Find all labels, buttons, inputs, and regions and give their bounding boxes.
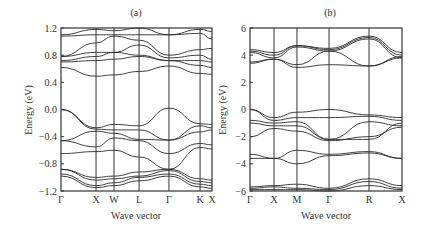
kpoint-label: Γ (58, 194, 64, 205)
ytick-label: −0.8 (39, 158, 57, 169)
panel-a-xlabel: Wave vector (111, 210, 162, 221)
band-line (250, 127, 402, 141)
kpoint-label: Γ (166, 194, 172, 205)
kpoint-label: X (270, 194, 278, 205)
ytick-label: −1.2 (39, 186, 57, 197)
band-structure-figure: (a) 1.20.80.40.0−0.4−0.8−1.2 ΓXWLΓKX Ene… (0, 0, 424, 232)
panel-b-label: (b) (324, 7, 336, 19)
band-line (250, 51, 402, 66)
band-line (250, 110, 402, 121)
kpoint-label: Γ (247, 194, 253, 205)
ytick-label: −0.4 (39, 131, 57, 142)
kpoint-label: W (109, 194, 119, 205)
kpoint-label: M (293, 194, 302, 205)
panel-a-bands (61, 28, 212, 188)
kpoint-label: Γ (326, 194, 332, 205)
ytick-label: 4 (241, 50, 246, 61)
kpoint-label: X (92, 194, 100, 205)
ytick-label: 0.4 (45, 77, 58, 88)
panel-a-label: (a) (130, 7, 141, 19)
ytick-label: 0.0 (45, 104, 58, 115)
ytick-label: −4 (235, 158, 246, 169)
band-line (61, 33, 212, 39)
kpoint-label: X (208, 194, 216, 205)
ytick-label: 6 (241, 23, 246, 34)
panel-a-ylabel: Energy (eV) (23, 85, 35, 135)
kpoint-label: L (136, 194, 142, 205)
ytick-label: 1.2 (45, 23, 58, 34)
ytick-label: −6 (235, 186, 246, 197)
kpoint-label: K (196, 194, 204, 205)
panel-a: (a) 1.20.80.40.0−0.4−0.8−1.2 ΓXWLΓKX Ene… (23, 7, 216, 221)
band-line (250, 120, 402, 139)
ytick-label: 0.8 (45, 50, 58, 61)
panel-a-frame (61, 28, 212, 191)
band-line (61, 110, 212, 141)
kpoint-label: X (398, 194, 406, 205)
panel-b-xlabel: Wave vector (301, 210, 352, 221)
band-line (61, 57, 212, 68)
band-line (250, 110, 402, 118)
ytick-label: 2 (241, 77, 246, 88)
ytick-label: −2 (235, 131, 246, 142)
kpoint-label: R (366, 194, 373, 205)
panel-b-ylabel: Energy (eV) (217, 85, 229, 135)
panel-a-xticks: ΓXWLΓKX (58, 194, 216, 205)
panel-b-xticks: ΓXMΓRX (247, 194, 406, 205)
panel-b-bands (250, 36, 402, 191)
ytick-label: 0 (241, 104, 246, 115)
band-line (61, 130, 212, 141)
band-line (61, 148, 212, 170)
band-line (61, 138, 212, 154)
panel-b: (b) 6420−2−4−6 ΓXMΓRX Energy (eV) Wave v… (217, 7, 406, 221)
band-line (61, 66, 212, 76)
panel-a-yticks: 1.20.80.40.0−0.4−0.8−1.2 (39, 23, 64, 197)
